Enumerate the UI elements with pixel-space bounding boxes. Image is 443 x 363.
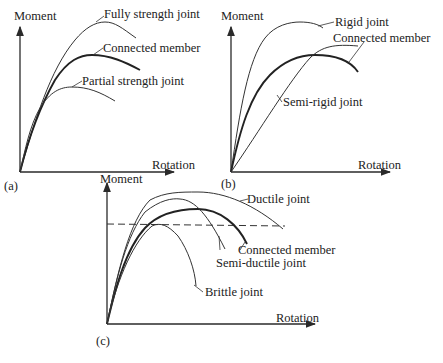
- curve-label-semi-ductile-joint: Semi-ductile joint: [216, 256, 306, 270]
- leader-line: [72, 81, 82, 87]
- leader-line: [194, 285, 203, 292]
- panel-tag: (c): [96, 334, 110, 348]
- panel-c: Moment Rotation (c) (b) Ductile joint Co…: [96, 172, 336, 348]
- curve-label-connected-member: Connected member: [333, 31, 431, 45]
- curve-label-fully-strength-joint: Fully strength joint: [104, 7, 200, 21]
- y-axis-label: Moment: [14, 9, 57, 23]
- curve-label-brittle-joint: Brittle joint: [205, 285, 264, 299]
- curve-label-partial-strength-joint: Partial strength joint: [82, 74, 185, 88]
- x-axis-label: Rotation: [358, 158, 402, 172]
- curve-label-connected-member: Connected member: [103, 41, 201, 55]
- curve-label-rigid-joint: Rigid joint: [335, 15, 389, 29]
- x-axis-label: Rotation: [152, 158, 196, 172]
- panel-tag: (b): [221, 177, 236, 191]
- panel-a: Moment Rotation (a) Fully strength joint…: [4, 7, 201, 193]
- curve-connected-member: [20, 55, 140, 172]
- curve-connected-member: [231, 55, 358, 172]
- moment-rotation-figure: Moment Rotation (a) Fully strength joint…: [0, 0, 443, 363]
- curve-label-semi-rigid-joint: Semi-rigid joint: [283, 95, 363, 109]
- leader-line: [93, 48, 103, 55]
- curve-label-connected-member: Connected member: [238, 243, 336, 257]
- y-axis-label: Moment: [100, 172, 143, 186]
- x-axis-label: Rotation: [276, 311, 320, 325]
- curve-partial-strength-joint: [20, 87, 115, 172]
- leader-line: [318, 22, 334, 26]
- leader-line: [96, 16, 104, 22]
- panel-b: Moment Rotation (b) Rigid joint Connecte…: [221, 9, 431, 191]
- panel-tag: (a): [4, 179, 18, 193]
- y-axis-label: Moment: [221, 9, 264, 23]
- leader-line: [349, 42, 364, 62]
- curve-label-ductile-joint: Ductile joint: [247, 192, 310, 206]
